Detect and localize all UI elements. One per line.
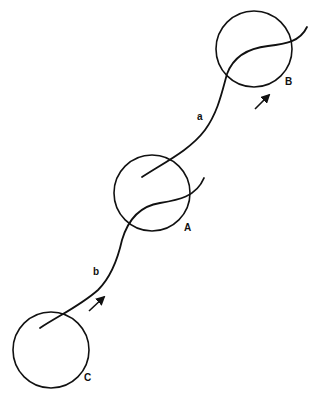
label-circle-a: A bbox=[184, 222, 191, 233]
curve-b bbox=[40, 178, 204, 328]
direction-arrow-a bbox=[255, 95, 269, 109]
curve-a bbox=[142, 27, 307, 177]
direction-arrow-b bbox=[89, 297, 104, 311]
circle-a bbox=[114, 155, 190, 231]
diagram-canvas: a b A B C bbox=[0, 0, 321, 395]
label-circle-c: C bbox=[84, 372, 91, 383]
label-curve-b: b bbox=[93, 266, 99, 277]
label-curve-a: a bbox=[197, 111, 203, 122]
circle-c bbox=[13, 312, 89, 388]
label-circle-b: B bbox=[285, 76, 292, 87]
